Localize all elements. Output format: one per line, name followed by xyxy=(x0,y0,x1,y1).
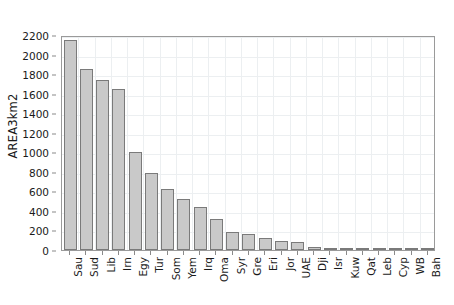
bar-Som[interactable] xyxy=(161,189,174,250)
x-tick-mark xyxy=(411,251,412,255)
y-tick-label: 1000 xyxy=(22,148,49,159)
x-tick-mark xyxy=(378,251,379,255)
y-tick-label: 400 xyxy=(29,207,49,218)
bar-Yem[interactable] xyxy=(177,199,190,250)
y-tick-mark xyxy=(52,75,56,76)
x-tick-label-Sau: Sau xyxy=(73,257,84,277)
x-tick-mark xyxy=(281,251,282,255)
y-tick-mark xyxy=(52,94,56,95)
bar-Oma[interactable] xyxy=(210,219,223,250)
y-tick-mark xyxy=(52,231,56,232)
bar-Irn[interactable] xyxy=(112,89,125,250)
bar-Syr[interactable] xyxy=(226,232,239,250)
y-tick-mark xyxy=(52,192,56,193)
x-tick-label-Gre: Gre xyxy=(252,257,263,276)
x-tick-label-Yem: Yem xyxy=(187,257,198,279)
x-tick-mark xyxy=(427,251,428,255)
x-tick-mark xyxy=(313,251,314,255)
bars-layer xyxy=(62,37,434,250)
x-tick-mark xyxy=(232,251,233,255)
bar-Gre[interactable] xyxy=(242,234,255,250)
y-tick-mark xyxy=(52,133,56,134)
y-tick-mark xyxy=(52,251,56,252)
x-tick-mark xyxy=(102,251,103,255)
bar-Bah[interactable] xyxy=(421,248,434,250)
bar-Tur[interactable] xyxy=(145,173,158,250)
x-tick-label-WB: WB xyxy=(415,257,426,275)
y-tick-label: 600 xyxy=(29,187,49,198)
x-tick-label-Isr: Isr xyxy=(333,257,344,270)
x-tick-label-Tur: Tur xyxy=(154,257,165,273)
y-tick-label: 200 xyxy=(29,226,49,237)
x-tick-label-Bah: Bah xyxy=(431,257,442,277)
x-tick-label-Kuw: Kuw xyxy=(350,257,361,279)
bar-Eri[interactable] xyxy=(259,238,272,250)
y-tick-label: 0 xyxy=(42,246,49,257)
x-tick-mark xyxy=(264,251,265,255)
x-tick-mark xyxy=(69,251,70,255)
x-tick-mark xyxy=(297,251,298,255)
y-tick-mark xyxy=(52,55,56,56)
bar-Sau[interactable] xyxy=(64,40,77,250)
bar-Cyp[interactable] xyxy=(389,248,402,250)
x-tick-mark xyxy=(346,251,347,255)
bar-UAE[interactable] xyxy=(291,242,304,250)
x-tick-label-Lib: Lib xyxy=(106,257,117,272)
x-tick-mark xyxy=(167,251,168,255)
y-tick-label: 1600 xyxy=(22,89,49,100)
bar-Irq[interactable] xyxy=(194,207,207,250)
x-tick-mark xyxy=(118,251,119,255)
x-tick-mark xyxy=(329,251,330,255)
x-tick-mark xyxy=(215,251,216,255)
x-tick-label-Qat: Qat xyxy=(366,257,377,276)
x-tick-label-Egy: Egy xyxy=(138,257,149,277)
bar-Qat[interactable] xyxy=(356,248,369,250)
bar-Dji[interactable] xyxy=(308,247,321,250)
x-tick-label-Cyp: Cyp xyxy=(398,257,409,277)
x-tick-label-Jor: Jor xyxy=(285,257,296,271)
x-tick-label-Oma: Oma xyxy=(219,257,230,282)
x-tick-label-Eri: Eri xyxy=(268,257,279,271)
x-axis-tick-labels: SauSudLibIrnEgyTurSomYemIrqOmaSyrGreEriJ… xyxy=(61,251,435,305)
y-axis-tick-labels: 0200400600800100012001400160018002000220… xyxy=(20,36,56,251)
y-tick-label: 1400 xyxy=(22,109,49,120)
x-tick-mark xyxy=(394,251,395,255)
bar-Jor[interactable] xyxy=(275,241,288,250)
y-tick-mark xyxy=(52,172,56,173)
bar-chart: AREA3km2 0200400600800100012001400160018… xyxy=(0,0,454,305)
x-tick-mark xyxy=(362,251,363,255)
bar-Lib[interactable] xyxy=(96,80,109,250)
bar-Egy[interactable] xyxy=(129,152,142,250)
bar-Sud[interactable] xyxy=(80,69,93,250)
y-tick-label: 1200 xyxy=(22,128,49,139)
y-tick-mark xyxy=(52,153,56,154)
x-tick-mark xyxy=(199,251,200,255)
bar-Isr[interactable] xyxy=(324,248,337,250)
y-tick-label: 1800 xyxy=(22,70,49,81)
x-tick-mark xyxy=(85,251,86,255)
bar-WB[interactable] xyxy=(405,248,418,250)
plot-area xyxy=(61,36,435,251)
y-tick-label: 800 xyxy=(29,168,49,179)
x-tick-label-UAE: UAE xyxy=(301,257,312,279)
bar-Leb[interactable] xyxy=(373,248,386,250)
x-tick-label-Syr: Syr xyxy=(236,257,247,274)
y-tick-mark xyxy=(52,114,56,115)
x-tick-label-Leb: Leb xyxy=(382,257,393,276)
x-tick-mark xyxy=(150,251,151,255)
x-tick-label-Sud: Sud xyxy=(89,257,100,277)
x-tick-mark xyxy=(248,251,249,255)
bar-Kuw[interactable] xyxy=(340,248,353,250)
x-tick-label-Irn: Irn xyxy=(122,257,133,271)
y-tick-mark xyxy=(52,36,56,37)
x-tick-mark xyxy=(134,251,135,255)
y-tick-label: 2000 xyxy=(22,50,49,61)
x-tick-label-Som: Som xyxy=(171,257,182,280)
y-tick-label: 2200 xyxy=(22,31,49,42)
y-tick-mark xyxy=(52,211,56,212)
y-axis-title-text: AREA3km2 xyxy=(6,93,20,158)
x-tick-label-Irq: Irq xyxy=(203,257,214,271)
x-tick-label-Dji: Dji xyxy=(317,257,328,271)
x-tick-mark xyxy=(183,251,184,255)
